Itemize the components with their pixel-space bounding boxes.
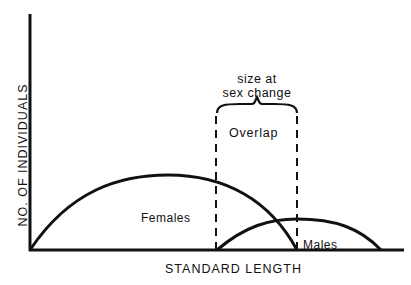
diagram-canvas [0,0,411,285]
y-axis-label: NO. OF INDIVIDUALS [16,80,30,230]
overlap-label: Overlap [229,126,278,140]
x-axis-label: STANDARD LENGTH [165,262,302,276]
females-label: Females [141,211,191,225]
males-curve [217,219,381,250]
size-at-sex-change-label: size at sex change [214,72,300,100]
males-label: Males [303,238,338,252]
annotation-line-2: sex change [214,86,300,100]
annotation-line-1: size at [214,72,300,86]
